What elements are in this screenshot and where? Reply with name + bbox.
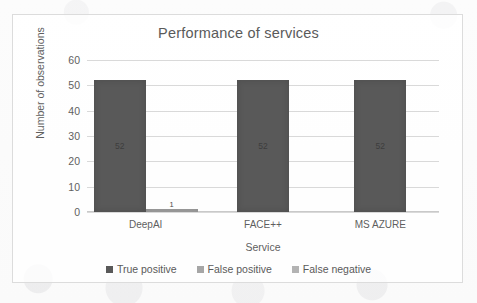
bar-true-positive[interactable]: 52 — [237, 80, 289, 212]
bar-group: 521DeepAI — [87, 60, 204, 212]
bar-data-label: 52 — [258, 142, 267, 151]
legend-swatch-icon — [197, 266, 204, 273]
bar-data-label: 52 — [115, 142, 124, 151]
legend-swatch-icon — [292, 266, 299, 273]
y-axis-tick-label: 0 — [74, 207, 80, 218]
y-axis-tick-label: 40 — [68, 105, 80, 116]
bar-data-label: 52 — [376, 142, 385, 151]
bar-group: 52FACE++ — [204, 60, 321, 212]
legend-item[interactable]: False positive — [197, 263, 272, 275]
bar-true-positive[interactable]: 52 — [354, 80, 406, 212]
scanned-page-background: Performance of services Number of observ… — [0, 0, 477, 303]
legend-item[interactable]: True positive — [106, 263, 177, 275]
y-axis-tick-label: 60 — [68, 55, 80, 66]
x-axis-title: Service — [87, 241, 439, 253]
y-axis-tick-label: 10 — [68, 181, 80, 192]
legend-label: False negative — [303, 263, 371, 275]
legend-label: False positive — [208, 263, 272, 275]
bar-group: 52MS AZURE — [322, 60, 439, 212]
x-axis-tick-label: FACE++ — [244, 219, 282, 230]
y-axis-title: Number of observations — [34, 8, 46, 158]
chart-legend: True positiveFalse positiveFalse negativ… — [13, 263, 464, 275]
legend-item[interactable]: False negative — [292, 263, 371, 275]
y-axis-tick-label: 30 — [68, 131, 80, 142]
bar-true-positive[interactable]: 52 — [94, 80, 146, 212]
gridline: 0 — [87, 212, 439, 213]
chart-frame: Performance of services Number of observ… — [12, 14, 463, 283]
bar-false-positive[interactable]: 1 — [146, 209, 198, 212]
x-axis-tick-label: DeepAI — [129, 219, 162, 230]
chart-title: Performance of services — [13, 25, 464, 41]
plot-area: 0102030405060521DeepAI52FACE++52MS AZURE — [87, 60, 439, 212]
legend-swatch-icon — [106, 266, 113, 273]
y-axis-tick-label: 50 — [68, 80, 80, 91]
bar-data-label: 1 — [170, 201, 174, 209]
y-axis-tick-label: 20 — [68, 156, 80, 167]
legend-label: True positive — [117, 263, 177, 275]
x-axis-tick-label: MS AZURE — [355, 219, 406, 230]
